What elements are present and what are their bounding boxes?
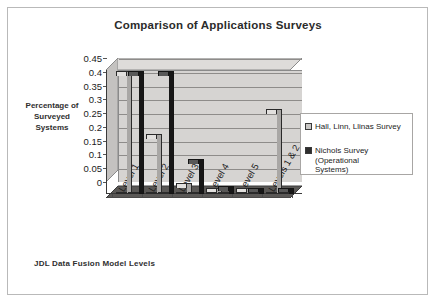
- chart-title: Comparison of Applications Surveys: [0, 19, 436, 31]
- y-axis-tick-5: 0.25: [84, 108, 103, 119]
- bar-side-face: [139, 71, 144, 194]
- y-axis-tick-2: 0.1: [89, 149, 102, 160]
- bar-front-face: [266, 192, 277, 194]
- bar-front-face: [236, 192, 247, 194]
- legend-label-series-2: Nichols Survey (Operational Systems): [315, 146, 412, 175]
- bar-side-face: [199, 159, 204, 194]
- bar-top-face: [116, 71, 127, 76]
- legend-swatch-light-icon: [305, 123, 312, 130]
- bar-top-face: [188, 159, 199, 164]
- bar-level-1-series-1: [116, 76, 127, 194]
- x-axis-category-labels: Level 1Level 2Level 3Level 4Level 5Level…: [100, 186, 330, 266]
- bar-top-face: [146, 134, 157, 139]
- y-axis-tick-8: 0.4: [89, 66, 102, 77]
- gridline-8: [119, 73, 302, 74]
- legend-item-series-1: Hall, Linn, Llinas Survey: [305, 122, 401, 132]
- bar-front-face: [146, 192, 157, 194]
- bar-levels-1-2-series-2: [278, 193, 289, 195]
- bar-level-3-series-2: [188, 164, 199, 194]
- bar-top-face: [158, 71, 169, 76]
- chart-legend: Hall, Linn, Llinas Survey Nichols Survey…: [300, 113, 413, 175]
- bar-front-face: [278, 192, 289, 194]
- x-axis-title: JDL Data Fusion Model Levels: [34, 259, 155, 268]
- bar-side-face: [259, 188, 264, 195]
- bar-front-face: [188, 192, 199, 194]
- bar-levels-1-2-series-1: [266, 114, 277, 194]
- gridline-6: [119, 100, 302, 101]
- bar-level-5-series-1: [236, 193, 247, 195]
- bar-side-face: [277, 109, 282, 194]
- bar-front-face: [176, 192, 187, 194]
- bar-front-face: [116, 192, 127, 194]
- bar-side-face: [169, 71, 174, 194]
- legend-swatch-dark-icon: [305, 147, 312, 154]
- bar-side-face: [229, 186, 234, 194]
- bar-top-face: [218, 186, 229, 191]
- bar-side-face: [289, 188, 294, 195]
- bar-front-face: [248, 192, 259, 194]
- gridline-7: [119, 87, 302, 88]
- y-axis-tick-labels: 00.050.10.150.20.250.30.350.40.45: [70, 58, 106, 182]
- bar-top-face: [128, 71, 139, 76]
- bar-level-2-series-2: [158, 76, 169, 194]
- bar-front-face: [218, 192, 229, 194]
- y-axis-tick-1: 0.05: [84, 163, 103, 174]
- y-axis-line: [106, 70, 107, 194]
- bar-top-face: [176, 183, 187, 188]
- chart-screenshot: Comparison of Applications Surveys Perce…: [0, 0, 436, 304]
- bar-front-face: [206, 192, 217, 194]
- legend-item-series-2: Nichols Survey (Operational Systems): [305, 146, 412, 175]
- y-axis-tick-4: 0.2: [89, 121, 102, 132]
- y-axis-tick-7: 0.35: [84, 80, 103, 91]
- bar-level-5-series-2: [248, 193, 259, 195]
- bar-front-face: [158, 192, 169, 194]
- bar-top-face: [266, 109, 277, 114]
- legend-label-series-1: Hall, Linn, Llinas Survey: [315, 122, 401, 132]
- bar-level-2-series-1: [146, 139, 157, 194]
- y-axis-tick-6: 0.3: [89, 94, 102, 105]
- y-axis-tick-9: 0.45: [84, 53, 103, 64]
- gridline-9: [119, 59, 302, 60]
- y-axis-tick-3: 0.15: [84, 135, 103, 146]
- bar-level-3-series-1: [176, 188, 187, 194]
- bar-front-face: [128, 192, 139, 194]
- plot-area: [106, 58, 302, 198]
- bar-level-4-series-2: [218, 191, 229, 194]
- bar-level-1-series-2: [128, 76, 139, 194]
- bar-level-4-series-1: [206, 193, 217, 195]
